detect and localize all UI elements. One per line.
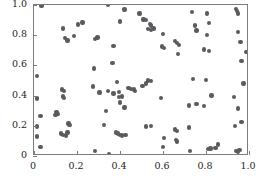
data-point [207, 21, 211, 25]
data-point [106, 5, 110, 7]
data-point [62, 89, 66, 93]
data-point [72, 34, 76, 38]
y-axis-tick-label: 0 [0, 150, 27, 160]
data-point [205, 33, 209, 37]
data-point [205, 11, 209, 15]
data-point [93, 149, 97, 153]
data-point [67, 123, 71, 127]
x-axis-tick [34, 151, 35, 155]
data-point [208, 146, 212, 150]
data-point [204, 78, 208, 82]
data-point [232, 95, 236, 99]
data-point [187, 103, 191, 107]
data-point [62, 96, 66, 100]
data-point [187, 125, 191, 129]
data-point [144, 124, 148, 128]
y-axis-tick-label: 0.2 [0, 120, 27, 130]
data-point [92, 66, 96, 70]
data-point [102, 123, 106, 127]
data-point [236, 106, 240, 110]
data-point [97, 90, 101, 94]
data-point [207, 49, 211, 53]
data-point [213, 146, 217, 150]
data-point [122, 105, 126, 109]
data-point [161, 145, 165, 149]
data-point [133, 89, 137, 93]
data-point [161, 32, 165, 36]
data-point [175, 129, 179, 133]
y-axis-tick-label: 0.4 [0, 90, 27, 100]
data-point [39, 5, 43, 8]
data-point [159, 96, 163, 100]
y-axis-tick [33, 65, 37, 66]
data-point [64, 133, 68, 137]
data-point [202, 104, 206, 108]
data-point [115, 80, 119, 84]
data-point [177, 43, 181, 47]
data-point [35, 134, 39, 138]
data-point [118, 19, 122, 23]
y-axis-tick-label: 1.0 [0, 0, 27, 9]
data-point [194, 102, 198, 106]
data-point [76, 22, 80, 26]
data-point [38, 145, 42, 149]
data-point [149, 79, 153, 83]
data-point [191, 77, 195, 81]
data-point [209, 93, 213, 97]
data-point [244, 50, 247, 54]
y-axis-tick [33, 5, 37, 6]
data-point [176, 52, 180, 56]
data-point [190, 10, 194, 14]
y-axis-tick-label: 0.8 [0, 29, 27, 39]
data-point [106, 89, 110, 93]
caption-fragment [120, 170, 257, 180]
data-point [239, 120, 243, 124]
x-axis-tick-label: 0 [30, 161, 36, 171]
data-point [144, 18, 148, 22]
data-point [233, 124, 237, 128]
data-point [111, 44, 115, 48]
x-axis-tick [120, 151, 121, 155]
data-point [61, 26, 65, 30]
data-point [80, 20, 84, 24]
data-point [111, 91, 115, 95]
data-point [149, 124, 153, 128]
x-axis-tick [206, 151, 207, 155]
x-axis-tick [249, 151, 250, 155]
data-point [110, 61, 114, 65]
data-point [239, 59, 243, 63]
data-point [35, 74, 39, 78]
x-axis-tick-label: 0.2 [68, 161, 83, 171]
data-point [35, 96, 39, 100]
y-axis-tick [33, 126, 37, 127]
data-point [238, 40, 242, 44]
data-point [241, 81, 245, 85]
data-point [140, 84, 144, 88]
data-point [202, 47, 206, 51]
data-point [194, 28, 198, 32]
data-point [104, 109, 108, 113]
x-axis-tick [163, 151, 164, 155]
data-point [193, 23, 197, 27]
data-point [53, 113, 57, 117]
y-axis-tick [33, 156, 37, 157]
data-point [118, 100, 122, 104]
y-axis-tick [33, 96, 37, 97]
data-point [122, 7, 126, 11]
data-point [65, 38, 69, 42]
data-point [162, 136, 166, 140]
data-point [237, 148, 241, 152]
data-point [107, 152, 111, 154]
data-point [162, 46, 166, 50]
scatter-plot-figure: 00.20.40.60.81.0 00.20.40.60.81.0 [0, 0, 257, 180]
x-axis-tick [77, 151, 78, 155]
data-point [175, 139, 179, 143]
data-point [114, 130, 118, 134]
data-point [123, 133, 127, 137]
data-point [38, 114, 42, 118]
y-axis-tick-label: 0.6 [0, 60, 27, 70]
y-axis-tick [33, 35, 37, 36]
plot-frame [33, 4, 248, 155]
data-point [137, 11, 141, 15]
data-point [151, 26, 155, 30]
